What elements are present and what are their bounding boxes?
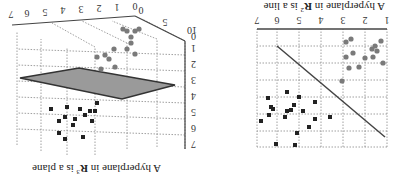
- svg-text:2: 2: [97, 3, 102, 14]
- svg-text:3: 3: [79, 4, 84, 15]
- svg-text:0: 0: [133, 1, 138, 12]
- y-axis-3d: [135, 16, 185, 41]
- svg-text:7: 7: [9, 9, 14, 20]
- svg-text:6: 6: [25, 8, 30, 19]
- x-axis-3d: [12, 16, 135, 25]
- svg-text:1: 1: [115, 2, 120, 13]
- z-ticks-3d: 7 6 5 4 3 2 1 0 10: [187, 25, 197, 150]
- svg-text:4: 4: [61, 5, 66, 16]
- plot-3d: 7 6 5 4 3 2 1 0 10 0 1 2 3 4 5 6 7 5 0: [0, 0, 397, 179]
- svg-text:4: 4: [191, 91, 196, 102]
- svg-text:3: 3: [191, 75, 196, 86]
- svg-text:10: 10: [187, 25, 197, 36]
- svg-text:5: 5: [43, 7, 48, 18]
- svg-text:6: 6: [191, 123, 196, 134]
- caption-3d: A hyperplane in R3 is a plane: [32, 163, 161, 176]
- svg-text:5: 5: [163, 17, 168, 28]
- svg-text:0: 0: [139, 5, 144, 16]
- figure: 1 2 3 4 5 6 7: [0, 0, 397, 179]
- square-points-3d: [49, 101, 99, 141]
- svg-text:7: 7: [191, 139, 196, 150]
- circle-points-3d: [94, 26, 141, 71]
- separating-plane: [20, 68, 175, 99]
- svg-text:2: 2: [191, 59, 196, 70]
- svg-text:1: 1: [191, 43, 196, 54]
- svg-text:5: 5: [191, 107, 196, 118]
